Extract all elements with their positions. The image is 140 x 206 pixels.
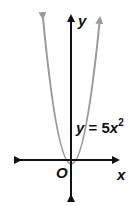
equation-label: y = 5x2: [75, 117, 124, 136]
x-axis-label: x: [116, 166, 126, 183]
origin-label: O: [56, 164, 68, 181]
y-axis-label: y: [77, 12, 87, 29]
parabola-graph: y x O y = 5x2: [0, 0, 140, 206]
